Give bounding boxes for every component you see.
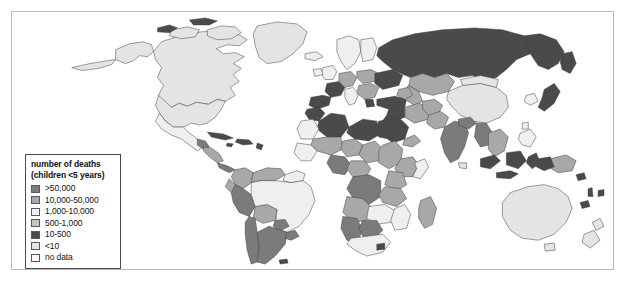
legend-item: 1,000-10,000 <box>31 206 115 218</box>
legend-item: 10-500 <box>31 229 115 241</box>
legend-swatch-icon <box>31 208 40 216</box>
region-fiji <box>598 190 604 197</box>
region-tasmania <box>544 243 555 251</box>
legend-item-label: <10 <box>45 241 59 253</box>
region-taiwan <box>522 122 528 129</box>
legend-item: no data <box>31 252 115 264</box>
region-lesotho <box>377 243 385 250</box>
map-legend: number of deaths (children <5 years) >50… <box>25 154 121 269</box>
region-greece <box>365 99 375 107</box>
region-sri-lanka <box>459 163 467 169</box>
region-vanuatu <box>588 188 593 197</box>
world-map-figure: .c{stroke:#3f3f3f;stroke-width:0.5;strok… <box>0 0 627 289</box>
legend-item-label: 500-1,000 <box>45 218 82 230</box>
legend-swatch-icon <box>31 242 40 250</box>
legend-item-label: 1,000-10,000 <box>45 206 94 218</box>
legend-swatch-icon <box>31 219 40 227</box>
region-canada <box>154 31 248 107</box>
legend-swatch-icon <box>31 231 40 239</box>
map-frame: .c{stroke:#3f3f3f;stroke-width:0.5;strok… <box>11 11 614 270</box>
legend-item-label: 10,000-50,000 <box>45 195 99 207</box>
legend-title-line2: (children <5 years) <box>31 170 115 181</box>
legend-item-label: no data <box>45 252 73 264</box>
legend-item: >50,000 <box>31 183 115 195</box>
legend-item-label: >50,000 <box>45 183 75 195</box>
legend-item: 500-1,000 <box>31 218 115 230</box>
legend-items: >50,000 10,000-50,000 1,000-10,000 500-1… <box>31 183 115 264</box>
legend-swatch-icon <box>31 196 40 204</box>
legend-item-label: 10-500 <box>45 229 71 241</box>
legend-title-line1: number of deaths <box>31 159 115 170</box>
legend-swatch-icon <box>31 185 40 193</box>
legend-swatch-icon <box>31 254 40 262</box>
region-falklands <box>279 259 288 264</box>
legend-item: <10 <box>31 241 115 253</box>
legend-item: 10,000-50,000 <box>31 195 115 207</box>
